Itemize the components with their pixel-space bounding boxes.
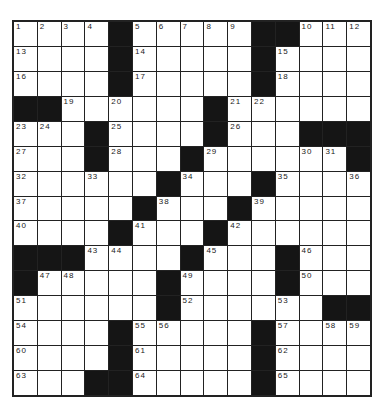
grid-cell[interactable] bbox=[181, 72, 204, 96]
grid-cell[interactable]: 27 bbox=[14, 147, 37, 171]
grid-cell[interactable] bbox=[181, 122, 204, 146]
grid-cell[interactable]: 5 bbox=[133, 22, 156, 46]
grid-cell[interactable] bbox=[181, 47, 204, 71]
grid-cell[interactable]: 13 bbox=[14, 47, 37, 71]
grid-cell[interactable] bbox=[85, 197, 108, 221]
grid-cell[interactable]: 1 bbox=[14, 22, 37, 46]
grid-cell[interactable]: 54 bbox=[14, 321, 37, 345]
grid-cell[interactable] bbox=[62, 296, 85, 320]
grid-cell[interactable] bbox=[347, 97, 370, 121]
grid-cell[interactable]: 6 bbox=[157, 22, 180, 46]
grid-cell[interactable] bbox=[85, 72, 108, 96]
grid-cell[interactable]: 34 bbox=[181, 172, 204, 196]
grid-cell[interactable]: 52 bbox=[181, 296, 204, 320]
grid-cell[interactable] bbox=[62, 221, 85, 245]
grid-cell[interactable] bbox=[276, 221, 299, 245]
grid-cell[interactable]: 14 bbox=[133, 47, 156, 71]
grid-cell[interactable] bbox=[62, 371, 85, 395]
grid-cell[interactable] bbox=[181, 321, 204, 345]
grid-cell[interactable] bbox=[347, 197, 370, 221]
grid-cell[interactable] bbox=[228, 147, 251, 171]
grid-cell[interactable]: 64 bbox=[133, 371, 156, 395]
grid-cell[interactable] bbox=[228, 246, 251, 270]
grid-cell[interactable]: 56 bbox=[157, 321, 180, 345]
grid-cell[interactable]: 45 bbox=[204, 246, 227, 270]
grid-cell[interactable] bbox=[62, 147, 85, 171]
grid-cell[interactable]: 40 bbox=[14, 221, 37, 245]
grid-cell[interactable] bbox=[38, 47, 61, 71]
grid-cell[interactable] bbox=[228, 296, 251, 320]
grid-cell[interactable] bbox=[276, 97, 299, 121]
grid-cell[interactable] bbox=[204, 271, 227, 295]
grid-cell[interactable] bbox=[157, 246, 180, 270]
grid-cell[interactable]: 4 bbox=[85, 22, 108, 46]
grid-cell[interactable] bbox=[204, 47, 227, 71]
grid-cell[interactable]: 38 bbox=[157, 197, 180, 221]
grid-cell[interactable]: 62 bbox=[276, 346, 299, 370]
grid-cell[interactable] bbox=[323, 72, 346, 96]
grid-cell[interactable]: 26 bbox=[228, 122, 251, 146]
grid-cell[interactable] bbox=[323, 172, 346, 196]
grid-cell[interactable] bbox=[300, 296, 323, 320]
grid-cell[interactable]: 3 bbox=[62, 22, 85, 46]
grid-cell[interactable]: 23 bbox=[14, 122, 37, 146]
grid-cell[interactable] bbox=[38, 371, 61, 395]
grid-cell[interactable]: 30 bbox=[300, 147, 323, 171]
grid-cell[interactable] bbox=[347, 246, 370, 270]
grid-cell[interactable] bbox=[204, 72, 227, 96]
grid-cell[interactable] bbox=[157, 72, 180, 96]
grid-cell[interactable] bbox=[323, 97, 346, 121]
grid-cell[interactable] bbox=[204, 321, 227, 345]
grid-cell[interactable] bbox=[133, 97, 156, 121]
grid-cell[interactable]: 36 bbox=[347, 172, 370, 196]
grid-cell[interactable] bbox=[157, 221, 180, 245]
grid-cell[interactable]: 48 bbox=[62, 271, 85, 295]
grid-cell[interactable] bbox=[204, 346, 227, 370]
grid-cell[interactable]: 44 bbox=[109, 246, 132, 270]
grid-cell[interactable]: 32 bbox=[14, 172, 37, 196]
grid-cell[interactable]: 21 bbox=[228, 97, 251, 121]
grid-cell[interactable]: 29 bbox=[204, 147, 227, 171]
grid-cell[interactable] bbox=[133, 122, 156, 146]
grid-cell[interactable] bbox=[109, 172, 132, 196]
grid-cell[interactable]: 2 bbox=[38, 22, 61, 46]
grid-cell[interactable] bbox=[323, 47, 346, 71]
grid-cell[interactable] bbox=[133, 172, 156, 196]
grid-cell[interactable]: 43 bbox=[85, 246, 108, 270]
grid-cell[interactable] bbox=[62, 197, 85, 221]
grid-cell[interactable]: 20 bbox=[109, 97, 132, 121]
grid-cell[interactable]: 50 bbox=[300, 271, 323, 295]
grid-cell[interactable] bbox=[38, 147, 61, 171]
grid-cell[interactable] bbox=[38, 172, 61, 196]
grid-cell[interactable] bbox=[62, 172, 85, 196]
grid-cell[interactable]: 57 bbox=[276, 321, 299, 345]
grid-cell[interactable]: 49 bbox=[181, 271, 204, 295]
grid-cell[interactable]: 60 bbox=[14, 346, 37, 370]
grid-cell[interactable] bbox=[300, 197, 323, 221]
grid-cell[interactable]: 25 bbox=[109, 122, 132, 146]
grid-cell[interactable] bbox=[228, 47, 251, 71]
grid-cell[interactable] bbox=[181, 97, 204, 121]
grid-cell[interactable] bbox=[323, 346, 346, 370]
grid-cell[interactable] bbox=[300, 172, 323, 196]
grid-cell[interactable] bbox=[323, 221, 346, 245]
grid-cell[interactable]: 18 bbox=[276, 72, 299, 96]
grid-cell[interactable] bbox=[300, 321, 323, 345]
grid-cell[interactable] bbox=[157, 371, 180, 395]
grid-cell[interactable]: 16 bbox=[14, 72, 37, 96]
grid-cell[interactable]: 63 bbox=[14, 371, 37, 395]
grid-cell[interactable] bbox=[252, 246, 275, 270]
grid-cell[interactable] bbox=[85, 321, 108, 345]
grid-cell[interactable]: 33 bbox=[85, 172, 108, 196]
grid-cell[interactable] bbox=[228, 321, 251, 345]
grid-cell[interactable]: 17 bbox=[133, 72, 156, 96]
grid-cell[interactable] bbox=[157, 346, 180, 370]
grid-cell[interactable] bbox=[252, 221, 275, 245]
grid-cell[interactable] bbox=[38, 72, 61, 96]
grid-cell[interactable] bbox=[276, 122, 299, 146]
grid-cell[interactable]: 9 bbox=[228, 22, 251, 46]
grid-cell[interactable] bbox=[252, 147, 275, 171]
grid-cell[interactable] bbox=[38, 221, 61, 245]
grid-cell[interactable] bbox=[157, 47, 180, 71]
grid-cell[interactable] bbox=[300, 47, 323, 71]
